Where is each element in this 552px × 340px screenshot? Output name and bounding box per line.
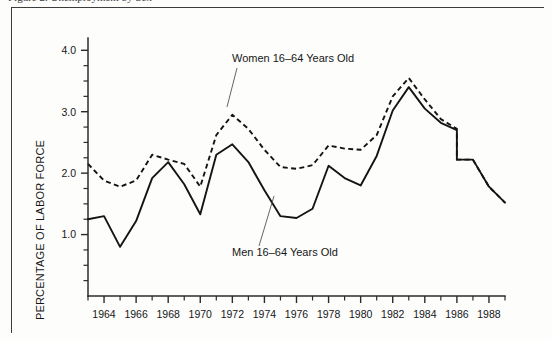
x-tick-label: 1964 bbox=[92, 308, 116, 320]
y-tick-label: 4.0 bbox=[61, 44, 76, 56]
y-axis-title: PERCENTAGE OF LABOR FORCE bbox=[34, 140, 46, 320]
chart-series bbox=[88, 78, 505, 247]
x-tick-label: 1988 bbox=[477, 308, 501, 320]
y-tick-label: 1.0 bbox=[61, 228, 76, 240]
x-tick-label: 1986 bbox=[445, 308, 469, 320]
x-tick-label: 1974 bbox=[253, 308, 277, 320]
x-axis-ticks bbox=[88, 296, 505, 303]
annotation-leader-line bbox=[259, 196, 274, 246]
x-tick-label: 1970 bbox=[189, 308, 213, 320]
x-tick-label: 1980 bbox=[349, 308, 373, 320]
y-tick-label: 2.0 bbox=[61, 167, 76, 179]
y-tick-label: 3.0 bbox=[61, 106, 76, 118]
chart-plot-area: 1.02.03.04.0 196419661968197019721974197… bbox=[0, 0, 552, 340]
x-tick-label: 1978 bbox=[317, 308, 341, 320]
x-tick-label: 1966 bbox=[124, 308, 148, 320]
series-line-men bbox=[88, 87, 505, 247]
annotation-label-women: Women 16–64 Years Old bbox=[232, 52, 354, 64]
x-axis-tick-labels: 1964196619681970197219741976197819801982… bbox=[92, 308, 500, 320]
chart-axes bbox=[81, 38, 505, 303]
x-tick-label: 1968 bbox=[157, 308, 181, 320]
annotation-label-men: Men 16–64 Years Old bbox=[232, 246, 338, 258]
annotation-leader-line bbox=[227, 68, 237, 107]
x-tick-label: 1982 bbox=[381, 308, 405, 320]
x-tick-label: 1972 bbox=[221, 308, 245, 320]
x-tick-label: 1976 bbox=[285, 308, 309, 320]
x-tick-label: 1984 bbox=[413, 308, 437, 320]
y-axis-ticks bbox=[81, 50, 88, 280]
chart-annotations: Women 16–64 Years OldMen 16–64 Years Old bbox=[227, 52, 354, 258]
y-axis-tick-labels: 1.02.03.04.0 bbox=[61, 44, 76, 240]
chart-svg: 1.02.03.04.0 196419661968197019721974197… bbox=[0, 0, 552, 340]
